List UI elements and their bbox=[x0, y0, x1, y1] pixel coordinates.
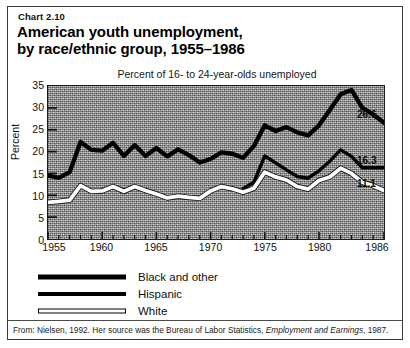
legend-label-hispanic: Hispanic bbox=[138, 288, 182, 300]
y-axis-tick-25: 25 bbox=[22, 123, 44, 135]
y-axis-tick-5: 5 bbox=[22, 212, 44, 224]
series-line-black-and-other bbox=[48, 90, 384, 178]
y-axis-tick-0: 0 bbox=[22, 234, 44, 246]
data-callout-black-and-other: 26.6 bbox=[357, 109, 376, 120]
y-axis-tick-10: 10 bbox=[22, 190, 44, 202]
series-line-white bbox=[48, 168, 384, 202]
plot-wrapper: 26.616.311.1 bbox=[47, 85, 385, 240]
data-callout-white: 11.1 bbox=[357, 178, 376, 189]
y-axis-tick-15: 15 bbox=[22, 168, 44, 180]
chart-legend: Black and other Hispanic White bbox=[38, 268, 338, 319]
figure-page: Chart 2.10 American youth unemployment, … bbox=[0, 0, 410, 348]
x-axis-tick-1965: 1965 bbox=[144, 241, 167, 253]
legend-label-white: White bbox=[138, 305, 167, 317]
chart-subtitle: Percent of 16- to 24-year-olds unemploye… bbox=[47, 68, 387, 80]
chart-number-label: Chart 2.10 bbox=[18, 11, 65, 22]
x-axis-tick-1986: 1986 bbox=[365, 241, 388, 253]
y-axis-tick-30: 30 bbox=[22, 101, 44, 113]
y-axis-tick-35: 35 bbox=[22, 79, 44, 91]
legend-swatch-black-and-other bbox=[38, 274, 126, 279]
legend-item-hispanic: Hispanic bbox=[38, 285, 338, 302]
plot-area bbox=[47, 85, 385, 240]
source-note: From: Nielsen, 1992. Her source was the … bbox=[13, 325, 403, 335]
y-axis-tick-20: 20 bbox=[22, 145, 44, 157]
plot-series-svg bbox=[48, 86, 384, 239]
source-note-publication: Employment and Earnings bbox=[266, 325, 363, 335]
source-note-prefix: From: Nielsen, 1992. Her source was the … bbox=[13, 325, 266, 335]
x-axis-tick-1970: 1970 bbox=[199, 241, 222, 253]
legend-swatch-white bbox=[38, 308, 126, 313]
legend-label-black-and-other: Black and other bbox=[138, 271, 218, 283]
chart-title-line-1: American youth unemployment, bbox=[17, 23, 243, 40]
source-divider bbox=[8, 320, 402, 321]
legend-item-black-and-other: Black and other bbox=[38, 268, 338, 285]
legend-swatch-hispanic bbox=[38, 292, 126, 296]
x-axis-tick-1975: 1975 bbox=[253, 241, 276, 253]
x-axis-tick-1960: 1960 bbox=[90, 241, 113, 253]
chart-title-line-2: by race/ethnic group, 1955–1986 bbox=[17, 40, 387, 57]
chart-title: American youth unemployment, by race/eth… bbox=[17, 23, 387, 57]
y-axis-tick-labels: 05101520253035 bbox=[20, 85, 44, 240]
legend-item-white: White bbox=[38, 302, 338, 319]
source-note-suffix: , 1987. bbox=[363, 325, 388, 335]
x-axis-tick-1980: 1980 bbox=[308, 241, 331, 253]
data-callout-hispanic: 16.3 bbox=[357, 155, 376, 166]
x-axis-tick-1955: 1955 bbox=[42, 241, 65, 253]
x-axis-tick-labels: 1955196019651970197519801986 bbox=[47, 241, 385, 255]
